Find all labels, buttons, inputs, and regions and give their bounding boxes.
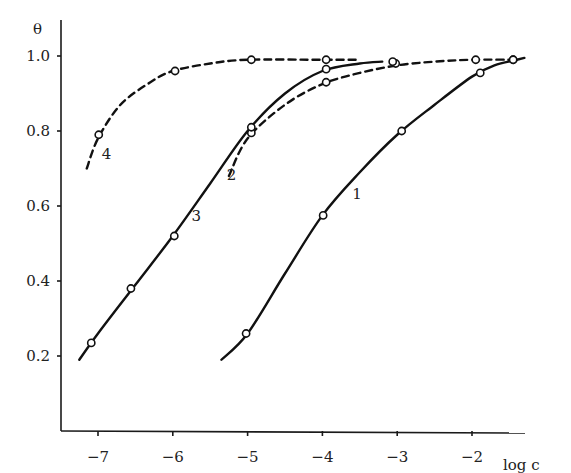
series-layer: 1234: [79, 56, 524, 360]
data-point: [323, 79, 330, 86]
x-tick-label: −7: [87, 448, 109, 466]
curve-label-1: 1: [352, 185, 362, 203]
y-tick-label: 0.8: [26, 122, 50, 140]
data-point: [243, 330, 250, 337]
data-point: [472, 56, 479, 63]
data-point: [171, 232, 178, 239]
data-point: [510, 56, 517, 63]
data-point: [88, 339, 95, 346]
data-point: [389, 58, 396, 65]
series-line-1: [221, 58, 524, 360]
x-tick-label: −2: [461, 448, 483, 466]
data-point: [398, 127, 405, 134]
data-point: [95, 131, 102, 138]
x-tick-label: −6: [162, 448, 184, 466]
curve-label-2: 2: [227, 166, 237, 184]
y-tick-label: 0.6: [26, 197, 50, 215]
data-point: [477, 69, 484, 76]
x-axis: −7−6−5−4−3−2 log c: [61, 431, 540, 473]
data-point: [248, 56, 255, 63]
x-tick-label: −5: [237, 448, 259, 466]
data-point: [171, 67, 178, 74]
series-1: 1: [221, 56, 524, 360]
y-axis: 0.20.40.60.81.0 θ: [26, 20, 61, 431]
data-point: [320, 212, 327, 219]
series-line-4: [87, 59, 360, 168]
data-point: [323, 66, 330, 73]
y-axis-title: θ: [33, 20, 42, 38]
y-tick-label: 0.4: [26, 272, 50, 290]
series-line-3: [79, 62, 382, 360]
x-axis-title: log c: [503, 456, 540, 473]
data-point: [248, 124, 255, 131]
data-point: [127, 285, 134, 292]
curve-label-4: 4: [102, 145, 112, 163]
adsorption-chart: 0.20.40.60.81.0 θ −7−6−5−4−3−2 log c 123…: [0, 0, 571, 473]
curve-label-3: 3: [192, 207, 202, 225]
series-3: 3: [79, 58, 396, 360]
x-tick-label: −4: [311, 448, 333, 466]
data-point: [323, 56, 330, 63]
x-tick-label: −3: [386, 448, 408, 466]
y-tick-label: 1.0: [26, 47, 50, 65]
y-tick-label: 0.2: [26, 347, 50, 365]
